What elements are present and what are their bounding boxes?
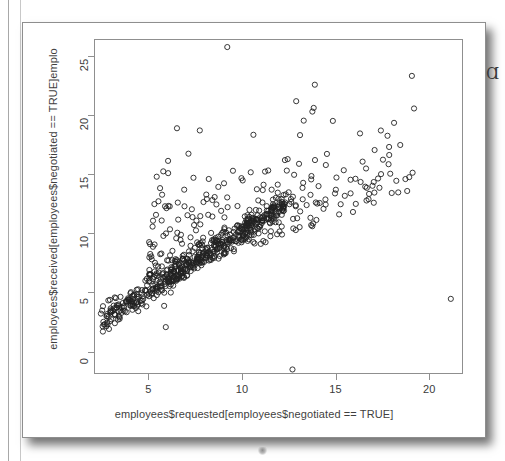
scatter-point (386, 162, 391, 167)
scatter-point (235, 203, 240, 208)
x-tick-mark (242, 374, 243, 380)
scatter-point (353, 176, 358, 181)
scatter-point (323, 162, 328, 167)
scatter-point (150, 218, 155, 223)
scatter-point (279, 224, 284, 229)
scatter-point (153, 212, 158, 217)
scatter-point (161, 169, 166, 174)
scatter-point (298, 209, 303, 214)
scatter-point (269, 187, 274, 192)
scatter-point (191, 175, 196, 180)
scatter-point (214, 202, 219, 207)
scatter-point (251, 239, 256, 244)
scatter-point (389, 190, 394, 195)
y-tick-label: 0 (78, 351, 90, 371)
scatter-point (268, 229, 273, 234)
scatter-point (366, 191, 371, 196)
scatter-point (225, 44, 230, 49)
scatter-point (275, 182, 280, 187)
scatter-point (372, 190, 377, 195)
scatter-point (262, 169, 267, 174)
scatter-point (371, 200, 376, 205)
plot-device: 5101520 0510152025 employees$requested[e… (23, 23, 485, 437)
scatter-point (167, 227, 172, 232)
scatter-point (324, 151, 329, 156)
x-axis-title: employees$requested[employees$negotiated… (23, 408, 485, 420)
x-tick-label: 5 (145, 383, 151, 395)
scatter-point (189, 207, 194, 212)
scatter-point (170, 248, 175, 253)
scatter-point (201, 235, 206, 240)
scatter-point (348, 191, 353, 196)
scatter-point (323, 202, 328, 207)
scatter-point (162, 303, 167, 308)
scatter-point (405, 188, 410, 193)
scatter-point (290, 367, 295, 372)
scatter-point (377, 185, 382, 190)
scatter-point (300, 185, 305, 190)
scatter-point (396, 190, 401, 195)
scatter-point (448, 296, 453, 301)
scatter-point (348, 177, 353, 182)
scatter-point (411, 106, 416, 111)
scatter-point (409, 73, 414, 78)
scatter-point (256, 198, 261, 203)
scatter-point (275, 190, 280, 195)
scatter-point (300, 197, 305, 202)
scatter-point (323, 197, 328, 202)
scatter-points-layer (95, 40, 462, 373)
scatter-point (304, 202, 309, 207)
scatter-point (380, 157, 385, 162)
scatter-point (219, 208, 224, 213)
scatter-point (165, 158, 170, 163)
scatter-point (332, 191, 337, 196)
scatter-point (292, 172, 297, 177)
x-tick-label: 15 (329, 383, 342, 395)
scatter-point (257, 208, 262, 213)
scatter-point (166, 171, 171, 176)
scatter-points-svg (95, 40, 462, 373)
scatter-point (266, 168, 271, 173)
scatter-point (341, 168, 346, 173)
scatter-point (157, 186, 162, 191)
scatter-point (342, 193, 347, 198)
scatter-point (309, 173, 314, 178)
y-tick-label: 25 (78, 55, 90, 75)
scatter-point (150, 224, 155, 229)
y-tick-label: 15 (78, 173, 90, 193)
scatter-point (398, 142, 403, 147)
scatter-point (154, 174, 159, 179)
scatter-point (358, 179, 363, 184)
scatter-point (372, 147, 377, 152)
scatter-point (188, 243, 193, 248)
scatter-point (98, 311, 103, 316)
pen-mark: Ɑ (486, 62, 502, 84)
scatter-point (363, 166, 368, 171)
scatter-point (410, 170, 415, 175)
scatter-point (174, 126, 179, 131)
scatter-point (357, 131, 362, 136)
scatter-point (261, 182, 266, 187)
scatter-point (252, 241, 257, 246)
scatter-point (168, 290, 173, 295)
scatter-point (193, 228, 198, 233)
scatter-point (216, 184, 221, 189)
scatter-point (163, 325, 168, 330)
scatter-point (188, 235, 193, 240)
scatter-point (186, 151, 191, 156)
scatter-point (222, 215, 227, 220)
scatter-point (262, 229, 267, 234)
scatter-point (387, 152, 392, 157)
scatter-point (221, 181, 226, 186)
scatter-point (301, 180, 306, 185)
scatter-point (330, 118, 335, 123)
scatter-point (301, 118, 306, 123)
scan-smudge-mark (258, 447, 267, 455)
scatter-point (160, 192, 165, 197)
scatter-point (308, 215, 313, 220)
scatter-point (387, 144, 392, 149)
y-axis-title: employees$received[employees$negotiated … (47, 29, 59, 369)
page-edge-line-inner (20, 0, 21, 461)
scatter-point (201, 199, 206, 204)
scatter-point (360, 159, 365, 164)
